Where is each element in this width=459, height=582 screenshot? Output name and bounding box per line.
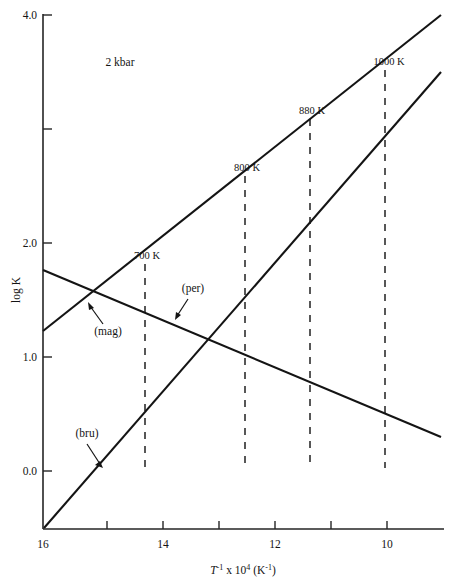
y-tick-label-0-0: 0.0 (23, 465, 38, 477)
axes-group (43, 14, 444, 529)
pressure-note: 2 kbar (105, 56, 134, 68)
arrow-head-mag (88, 302, 94, 310)
leader-line-bru (87, 444, 100, 464)
series-label-mag: (mag) (94, 325, 122, 338)
series-line-per (43, 270, 441, 437)
y-axis-ticks (43, 15, 52, 471)
x-tick-label-14: 14 (157, 538, 169, 550)
annotation-bru: (bru) (76, 427, 104, 468)
arrow-head-per (175, 312, 181, 320)
leader-line-per (177, 299, 188, 316)
y-axis-title-group: log K (10, 276, 23, 303)
y-axis-title: log K (10, 276, 23, 303)
y-axis-tick-labels: 4.0 2.0 1.0 0.0 (23, 9, 38, 477)
x-axis-tick-labels: 16 14 12 10 (37, 538, 393, 550)
temp-label-800k: 800 K (234, 162, 260, 173)
data-series-group (43, 15, 441, 528)
annotation-per: (per) (175, 282, 204, 320)
x-axis-title: T-1 x 104 (K-1) (210, 563, 276, 577)
x-tick-label-10: 10 (381, 538, 393, 550)
series-label-per: (per) (182, 282, 205, 295)
x-axis-ticks (107, 521, 387, 529)
y-tick-label-2-0: 2.0 (23, 237, 38, 249)
y-tick-label-1-0: 1.0 (23, 351, 38, 363)
x-tick-label-12: 12 (269, 538, 281, 550)
series-label-bru: (bru) (76, 427, 99, 440)
chart-canvas: 4.0 2.0 1.0 0.0 log K 16 14 12 10 T-1 x … (0, 0, 459, 582)
series-line-mag (43, 15, 441, 331)
temperature-markers (145, 70, 385, 468)
y-tick-label-4-0: 4.0 (23, 9, 38, 21)
figure-container: 4.0 2.0 1.0 0.0 log K 16 14 12 10 T-1 x … (0, 0, 459, 582)
series-line-bru (44, 72, 441, 528)
x-tick-label-16: 16 (37, 538, 49, 550)
annotation-mag: (mag) (88, 302, 122, 338)
